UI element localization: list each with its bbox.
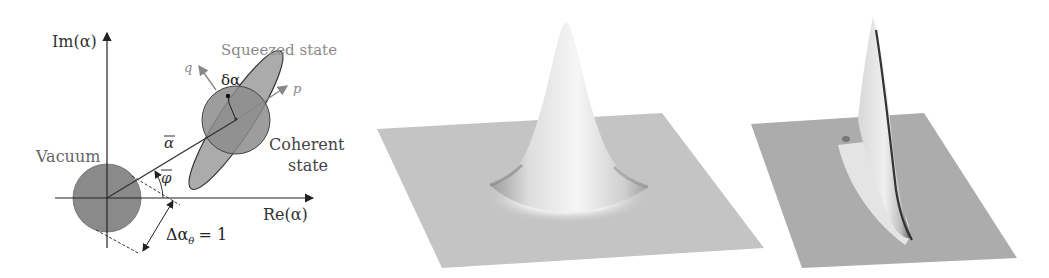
uncertainty-subscript: θ — [188, 235, 194, 246]
phi-bar-label: φ — [161, 169, 172, 187]
delta-alpha-label: δα — [221, 71, 240, 89]
q-axis-arrow — [199, 66, 216, 90]
squeezed-dip — [842, 136, 850, 142]
delta-alpha-point — [226, 94, 230, 98]
dashed-line-lower — [96, 230, 140, 254]
coherent-wigner-plot — [360, 0, 770, 278]
coherent-wigner-svg — [360, 0, 770, 278]
imag-axis-label: Im(α) — [52, 32, 97, 51]
coherent-label-line2: state — [288, 156, 328, 175]
squeezed-wigner-plot — [745, 0, 1049, 278]
alpha-bar-label: α — [164, 134, 174, 152]
squeezed-state-label: Squeezed state — [221, 41, 337, 59]
vacuum-label: Vacuum — [35, 147, 100, 166]
squeezed-wigner-svg — [745, 0, 1049, 278]
p-label: p — [293, 81, 302, 96]
phase-space-svg: Im(α) Re(α) Squeezed state Coherent stat… — [0, 0, 350, 278]
real-axis-label: Re(α) — [263, 205, 308, 224]
phase-space-diagram: Im(α) Re(α) Squeezed state Coherent stat… — [0, 0, 350, 278]
coherent-center — [235, 118, 238, 121]
uncertainty-value: = 1 — [198, 225, 227, 244]
uncertainty-label: Δαθ= 1 — [166, 225, 227, 246]
q-label: q — [184, 60, 192, 75]
coherent-label-line1: Coherent — [269, 135, 345, 154]
uncertainty-symbol: Δα — [166, 225, 189, 244]
